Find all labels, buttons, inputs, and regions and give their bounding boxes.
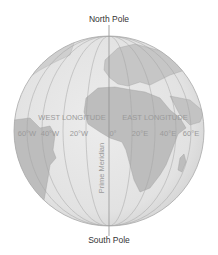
tick-20e: 20°E bbox=[132, 129, 148, 138]
tick-60e: 60°E bbox=[183, 129, 199, 138]
south-pole-label: South Pole bbox=[0, 235, 218, 245]
tick-20w: 20°W bbox=[70, 129, 89, 138]
west-longitude-label: WEST LONGITUDE bbox=[38, 113, 105, 122]
tick-40w: 40°W bbox=[41, 129, 60, 138]
east-longitude-label: EAST LONGITUDE bbox=[122, 113, 187, 122]
globe-diagram: WEST LONGITUDE EAST LONGITUDE 60°W 40°W … bbox=[0, 0, 218, 255]
tick-0: 0° bbox=[109, 129, 116, 138]
tick-60w: 60°W bbox=[18, 129, 37, 138]
prime-meridian-label: Prime Meridian bbox=[97, 143, 106, 193]
tick-40e: 40°E bbox=[160, 129, 176, 138]
